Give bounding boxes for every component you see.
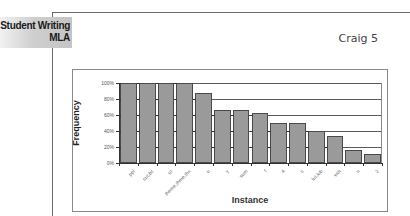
y-tick-label: 0% (88, 160, 114, 166)
bar (308, 131, 325, 163)
page-border-top (52, 12, 410, 13)
bar (176, 83, 193, 163)
bar (252, 113, 269, 163)
x-tick-mark (269, 163, 270, 166)
bar (233, 110, 250, 163)
bar (364, 154, 381, 163)
bar-tick (193, 131, 196, 132)
bar-tick (174, 147, 177, 148)
x-tick-mark (138, 163, 139, 166)
bar-tick (250, 131, 253, 132)
bar-tick (156, 83, 159, 84)
section-tab-subtitle: MLA (0, 32, 70, 44)
x-tick-mark (251, 163, 252, 166)
x-tick-mark (288, 163, 289, 166)
bar-tick (306, 147, 309, 148)
bar-tick (193, 147, 196, 148)
bar-tick (212, 131, 215, 132)
bar-tick (250, 147, 253, 148)
bar (270, 123, 287, 163)
bar-tick (156, 99, 159, 100)
y-tick-label: 40% (88, 128, 114, 134)
bar-tick (268, 131, 271, 132)
x-tick-mark (232, 163, 233, 166)
bar-tick (250, 115, 253, 116)
bar-tick (137, 147, 140, 148)
running-head: Craig 5 (318, 32, 378, 45)
bar (214, 110, 231, 163)
bar (345, 150, 362, 163)
x-tick-mark (326, 163, 327, 166)
bar-tick (174, 131, 177, 132)
bar-tick (156, 131, 159, 132)
bar-tick (137, 115, 140, 116)
bar-tick (174, 115, 177, 116)
bar-tick (137, 83, 140, 84)
bar-tick (325, 147, 328, 148)
bar (139, 83, 156, 163)
bar-tick (137, 99, 140, 100)
y-axis-line (119, 83, 120, 165)
bar-tick (212, 115, 215, 116)
bar-tick (231, 115, 234, 116)
bar-tick (137, 131, 140, 132)
bar-tick (268, 147, 271, 148)
x-tick-mark (382, 163, 383, 166)
bar (120, 83, 137, 163)
bar (289, 123, 306, 163)
bar-tick (174, 83, 177, 84)
plot-area (119, 83, 382, 163)
section-tab-title: Student Writing (0, 20, 70, 32)
bar-tick (231, 147, 234, 148)
bar-tick (287, 131, 290, 132)
y-tick-label: 20% (88, 144, 114, 150)
x-tick-mark (363, 163, 364, 166)
bar-tick (174, 99, 177, 100)
y-tick-label: 100% (88, 80, 114, 86)
bar-tick (193, 99, 196, 100)
bar (327, 136, 344, 163)
x-tick-mark (157, 163, 158, 166)
bar-tick (156, 147, 159, 148)
y-tick-label: 60% (88, 112, 114, 118)
x-tick-mark (213, 163, 214, 166)
bar (158, 83, 175, 163)
y-axis-title-text: Frequency (71, 100, 81, 146)
bar-tick (287, 147, 290, 148)
bar-tick (156, 115, 159, 116)
bar-tick (193, 115, 196, 116)
bar-tick (231, 131, 234, 132)
bar (195, 93, 212, 163)
x-tick-mark (194, 163, 195, 166)
x-tick-mark (307, 163, 308, 166)
x-axis-title: Instance (200, 195, 300, 205)
bar-tick (306, 131, 309, 132)
x-tick-mark (175, 163, 176, 166)
bar-tick (212, 147, 215, 148)
section-tab: Student Writing MLA (0, 17, 72, 48)
x-tick-mark (119, 163, 120, 166)
x-tick-mark (344, 163, 345, 166)
y-tick-label: 80% (88, 96, 114, 102)
